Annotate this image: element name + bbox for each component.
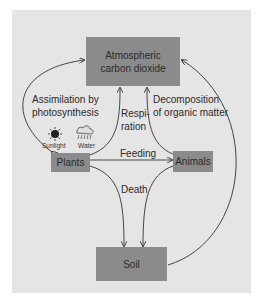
animals-node: Animals <box>173 151 213 172</box>
respiration-line1: Respi- <box>121 108 150 121</box>
plants-node: Plants <box>51 153 90 172</box>
sunlight-label: Sunlight <box>42 142 66 149</box>
respiration-label: Respi- ration <box>121 108 150 133</box>
soil-node: Soil <box>96 247 167 281</box>
respiration-line2: ration <box>121 121 150 134</box>
decomposition-line2: of organic matter <box>153 107 228 120</box>
assimilation-label: Assimilation by photosynthesis <box>32 94 99 119</box>
assimilation-line1: Assimilation by <box>32 94 99 107</box>
decomposition-label: Decomposition of organic matter <box>153 94 228 119</box>
water-icon <box>77 126 93 139</box>
feeding-label: Feeding <box>120 148 156 161</box>
decomposition-line1: Decomposition <box>153 94 228 107</box>
atmospheric-co2-line2: carbon dioxide <box>100 62 165 75</box>
animals-label: Animals <box>175 155 211 168</box>
water-label: Water <box>78 142 95 149</box>
death-animals-arrow <box>143 166 173 246</box>
plants-label: Plants <box>57 156 85 169</box>
death-plants-arrow <box>90 166 124 246</box>
atmospheric-co2-line1: Atmospheric <box>105 49 161 62</box>
sunlight-icon <box>48 127 62 141</box>
death-label: Death <box>121 184 148 197</box>
soil-label: Soil <box>123 258 140 271</box>
atmospheric-co2-node: Atmospheric carbon dioxide <box>86 37 180 86</box>
assimilation-line2: photosynthesis <box>32 107 99 120</box>
